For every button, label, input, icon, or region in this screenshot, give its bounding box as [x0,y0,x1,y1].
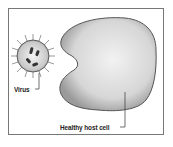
host-cell-shape [60,18,156,111]
virus-leader-line [35,73,39,89]
host-cell-label: Healthy host cell [60,123,110,132]
virus-icon [11,34,55,78]
virus-label: Virus [14,85,30,94]
